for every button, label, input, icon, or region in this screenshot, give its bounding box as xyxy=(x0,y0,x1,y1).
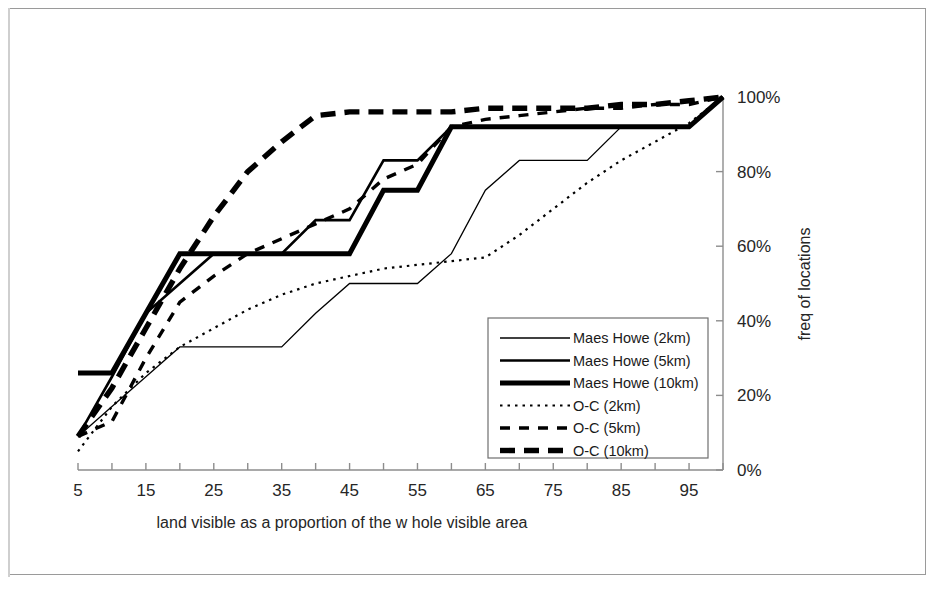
y-tick-label: 60% xyxy=(737,237,771,256)
y-axis-ticks xyxy=(716,97,723,470)
x-tick-label: 85 xyxy=(612,481,631,500)
legend: Maes Howe (2km)Maes Howe (5km)Maes Howe … xyxy=(488,318,708,459)
y-tick-label: 20% xyxy=(737,386,771,405)
x-tick-label: 35 xyxy=(272,481,291,500)
legend-label: O-C (2km) xyxy=(573,398,641,414)
y-axis-tick-labels: 0%20%40%60%80%100% xyxy=(737,88,780,480)
x-tick-label: 75 xyxy=(544,481,563,500)
legend-label: O-C (10km) xyxy=(573,443,649,459)
legend-label: Maes Howe (10km) xyxy=(573,375,699,391)
y-tick-label: 80% xyxy=(737,163,771,182)
legend-label: O-C (5km) xyxy=(573,420,641,436)
y-axis-title: freq of locations xyxy=(796,228,813,341)
x-tick-label: 25 xyxy=(204,481,223,500)
legend-label: Maes Howe (2km) xyxy=(573,330,691,346)
chart-figure: 5152535455565758595 0%20%40%60%80%100% l… xyxy=(0,0,940,589)
x-tick-label: 5 xyxy=(73,481,82,500)
legend-label: Maes Howe (5km) xyxy=(573,353,691,369)
x-tick-label: 45 xyxy=(340,481,359,500)
x-axis-ticks xyxy=(78,463,723,470)
x-axis-tick-labels: 5152535455565758595 xyxy=(73,481,698,500)
x-axis-title: land visible as a proportion of the w ho… xyxy=(157,514,528,531)
x-tick-label: 65 xyxy=(476,481,495,500)
y-tick-label: 100% xyxy=(737,88,780,107)
x-tick-label: 55 xyxy=(408,481,427,500)
y-tick-label: 0% xyxy=(737,461,762,480)
y-tick-label: 40% xyxy=(737,312,771,331)
x-tick-label: 95 xyxy=(680,481,699,500)
chart-svg: 5152535455565758595 0%20%40%60%80%100% l… xyxy=(0,0,940,589)
x-tick-label: 15 xyxy=(136,481,155,500)
